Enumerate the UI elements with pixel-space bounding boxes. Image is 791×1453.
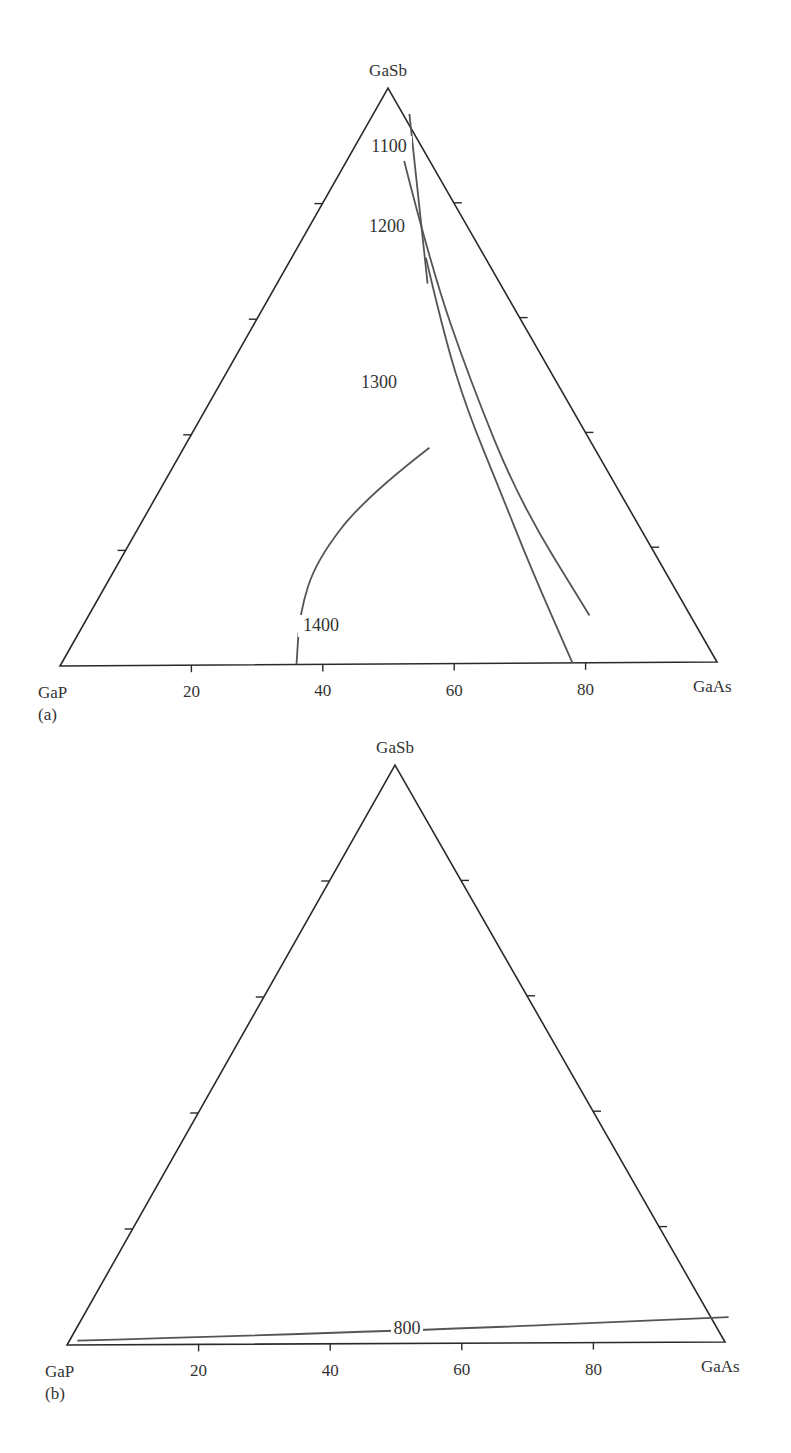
- tick-marks: [118, 203, 660, 672]
- vertex-label-right: GaAs: [701, 1357, 740, 1376]
- tick-label-40: 40: [314, 681, 331, 700]
- ternary-phase-diagrams: GaSb GaP GaAs (a) 20 40 60 80 1100 1200 …: [0, 0, 791, 1453]
- panel-b: GaSb GaP GaAs (b) 20 40 60 80 800: [45, 738, 740, 1403]
- isotherm-lines: [297, 114, 590, 665]
- isotherm-label-text: 1300: [361, 372, 397, 392]
- vertex-label-left: GaP: [45, 1362, 74, 1381]
- tick-marks: [125, 880, 667, 1351]
- vertex-label-right: GaAs: [693, 677, 732, 696]
- isotherm-labels: 800: [391, 1318, 423, 1338]
- isotherm-label-text: 800: [394, 1318, 421, 1338]
- tick-labels: 20 40 60 80: [190, 1360, 602, 1381]
- tick-label-60: 60: [453, 1360, 470, 1379]
- isotherm-1100: [409, 114, 427, 284]
- tick-label-20: 20: [183, 682, 200, 701]
- isotherm-label-text: 1400: [303, 615, 339, 635]
- panel-label: (a): [38, 705, 57, 724]
- tick-label-80: 80: [585, 1360, 602, 1379]
- tick-label-20: 20: [190, 1361, 207, 1380]
- triangle-frame: [67, 765, 725, 1345]
- isotherm-label-1400: 1400: [298, 615, 344, 637]
- panel-a: GaSb GaP GaAs (a) 20 40 60 80 1100 1200 …: [38, 61, 732, 724]
- isotherm-label-text: 1100: [371, 136, 406, 156]
- isotherm-1200: [404, 161, 589, 615]
- panel-label: (b): [45, 1384, 65, 1403]
- isotherm-label-800: 800: [391, 1318, 423, 1338]
- isotherm-label-1300: 1300: [356, 371, 402, 393]
- tick-label-60: 60: [446, 681, 463, 700]
- vertex-label-left: GaP: [38, 683, 67, 702]
- tick-label-80: 80: [577, 680, 594, 699]
- isotherm-label-text: 1200: [369, 216, 405, 236]
- isotherm-label-1200: 1200: [364, 216, 410, 236]
- isotherm-label-1100: 1100: [366, 136, 412, 156]
- tick-label-40: 40: [322, 1361, 339, 1380]
- vertex-label-top: GaSb: [376, 738, 414, 757]
- tick-labels: 20 40 60 80: [183, 680, 594, 701]
- vertex-label-top: GaSb: [369, 61, 407, 80]
- isotherm-labels: 1100 1200 1300 1400: [298, 136, 412, 637]
